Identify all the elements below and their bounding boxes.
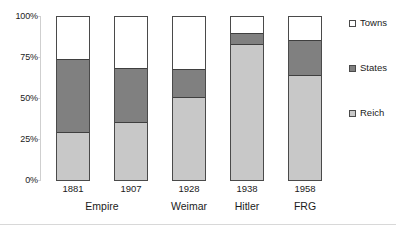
stacked-bar[interactable] — [230, 16, 264, 181]
stacked-bar[interactable] — [288, 16, 322, 181]
legend-swatch-towns-icon — [349, 20, 356, 27]
y-tick-label-75: 75% — [2, 53, 38, 62]
stacked-bar[interactable] — [172, 16, 206, 181]
bar-group-1881 — [56, 16, 90, 181]
bar-group-1907 — [114, 16, 148, 181]
bar-segment-towns[interactable] — [173, 17, 205, 69]
bar-segment-reich[interactable] — [289, 76, 321, 180]
bar-segment-states[interactable] — [231, 33, 263, 44]
legend-item-states[interactable]: States — [349, 63, 387, 73]
plot-area — [41, 16, 341, 181]
legend-label-states: States — [360, 63, 387, 73]
x-tick-label-1938: 1938 — [217, 183, 277, 195]
bar-segment-states[interactable] — [289, 40, 321, 76]
bar-segment-states[interactable] — [115, 68, 147, 123]
x-group-label-frg: FRG — [260, 199, 350, 213]
bar-segment-reich[interactable] — [231, 45, 263, 180]
bar-segment-towns[interactable] — [231, 17, 263, 33]
bar-segment-reich[interactable] — [115, 123, 147, 180]
y-tick-label-0: 0% — [2, 176, 38, 185]
bar-segment-towns[interactable] — [289, 17, 321, 40]
x-tick-label-1958: 1958 — [275, 183, 335, 195]
x-tick-label-1928: 1928 — [159, 183, 219, 195]
legend-item-towns[interactable]: Towns — [349, 18, 387, 28]
y-tick-label-50: 50% — [2, 94, 38, 103]
stacked-bar[interactable] — [114, 16, 148, 181]
legend-swatch-states-icon — [349, 65, 356, 72]
x-tick-label-1881: 1881 — [43, 183, 103, 195]
bar-group-1938 — [230, 16, 264, 181]
x-group-label-empire: Empire — [57, 199, 147, 213]
stacked-bar[interactable] — [56, 16, 90, 181]
bar-segment-towns[interactable] — [57, 17, 89, 59]
y-axis-tick-labels: 100% 75% 50% 25% 0% — [0, 0, 38, 225]
legend: Towns States Reich — [349, 16, 396, 126]
y-tick-label-100: 100% — [2, 12, 38, 21]
stacked-bar-chart: 100% 75% 50% 25% 0% — [0, 0, 396, 225]
bar-segment-reich[interactable] — [173, 98, 205, 180]
legend-item-reich[interactable]: Reich — [349, 108, 384, 118]
bar-segment-reich[interactable] — [57, 133, 89, 180]
x-axis-labels: 1881 1907 1928 1938 1958 Empire Weimar H… — [41, 183, 341, 225]
bar-segment-states[interactable] — [173, 69, 205, 98]
legend-label-towns: Towns — [360, 18, 387, 28]
legend-swatch-reich-icon — [349, 110, 356, 117]
legend-label-reich: Reich — [360, 108, 384, 118]
y-tick-label-25: 25% — [2, 135, 38, 144]
bar-group-1958 — [288, 16, 322, 181]
bar-segment-states[interactable] — [57, 59, 89, 132]
bar-segment-towns[interactable] — [115, 17, 147, 68]
bar-group-1928 — [172, 16, 206, 181]
x-tick-label-1907: 1907 — [101, 183, 161, 195]
